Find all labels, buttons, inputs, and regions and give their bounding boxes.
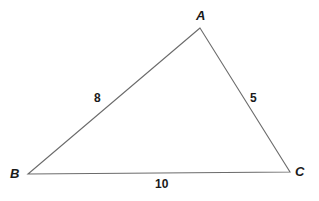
triangle-figure: A B C 8 5 10 [0,0,319,201]
vertex-label-c: C [295,165,304,178]
vertex-label-a: A [196,9,205,22]
side-length-label-ac: 5 [250,92,257,104]
side-length-label-ab: 8 [94,92,101,104]
triangle-shape [0,0,319,201]
side-length-label-bc: 10 [155,178,168,190]
vertex-label-b: B [10,167,19,180]
